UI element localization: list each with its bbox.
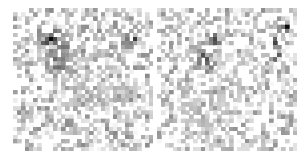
left-heatmap-panel [13,8,153,151]
figure-canvas [0,0,307,154]
right-heatmap-canvas [157,8,297,151]
right-heatmap-panel [157,8,297,151]
left-heatmap-canvas [13,8,153,151]
